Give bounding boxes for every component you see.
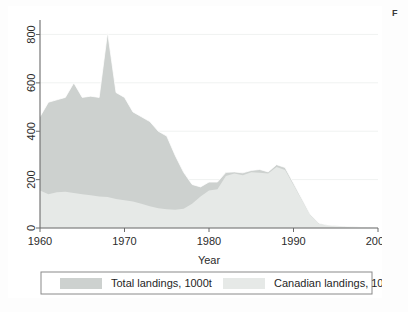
legend-label-total: Total landings, 1000t bbox=[111, 277, 212, 289]
x-tick-label: 1960 bbox=[28, 235, 52, 247]
legend-label-canadian: Canadian landings, 1000t bbox=[274, 277, 382, 289]
x-axis-title: Year bbox=[198, 254, 221, 266]
y-tick-label: 400 bbox=[25, 122, 37, 140]
x-tick-label: 1990 bbox=[281, 235, 305, 247]
legend-swatch-canadian[interactable] bbox=[223, 278, 265, 289]
legend-swatch-total[interactable] bbox=[60, 278, 102, 289]
x-tick-label: 1970 bbox=[112, 235, 136, 247]
landings-area-chart: 0200400600800 19601970198019902000 Year … bbox=[8, 6, 382, 298]
chart-card: 0200400600800 19601970198019902000 Year … bbox=[8, 6, 382, 298]
figure-container: F 0200 bbox=[0, 0, 408, 312]
y-tick-label: 600 bbox=[25, 74, 37, 92]
chart-legend: Total landings, 1000t Canadian landings,… bbox=[41, 272, 382, 294]
y-axis-ticks: 0200400600800 bbox=[25, 25, 40, 231]
caption-fragment-text: F bbox=[392, 8, 402, 18]
y-tick-label: 0 bbox=[25, 225, 37, 231]
y-tick-label: 800 bbox=[25, 25, 37, 43]
x-axis-ticks: 19601970198019902000 bbox=[28, 228, 382, 247]
x-tick-label: 2000 bbox=[366, 235, 382, 247]
x-tick-label: 1980 bbox=[197, 235, 221, 247]
y-tick-label: 200 bbox=[25, 170, 37, 188]
